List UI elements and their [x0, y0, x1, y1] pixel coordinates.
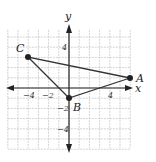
point-b-label: B — [72, 101, 81, 114]
y-axis-label: y — [64, 10, 72, 23]
point-b — [66, 95, 72, 101]
y-axis-down-arrow-icon — [66, 144, 72, 153]
point-a — [127, 75, 133, 81]
x-tick-label: −2 — [42, 91, 54, 100]
y-tick-label: 4 — [61, 43, 67, 52]
point-a-label: A — [135, 72, 144, 85]
y-axis-up-arrow-icon — [66, 24, 72, 33]
point-c-label: C — [16, 42, 25, 55]
coordinate-plane: x y −4 −2 4 4 −2 −4 A B C — [0, 0, 156, 162]
x-axis-left-arrow-icon — [6, 85, 14, 91]
point-c — [25, 54, 31, 60]
x-tick-label: 4 — [107, 91, 113, 100]
x-tick-label: −4 — [23, 91, 35, 100]
x-axis-right-arrow-icon — [125, 85, 133, 91]
y-tick-label: −4 — [57, 125, 69, 134]
y-tick-label: −2 — [57, 104, 69, 113]
